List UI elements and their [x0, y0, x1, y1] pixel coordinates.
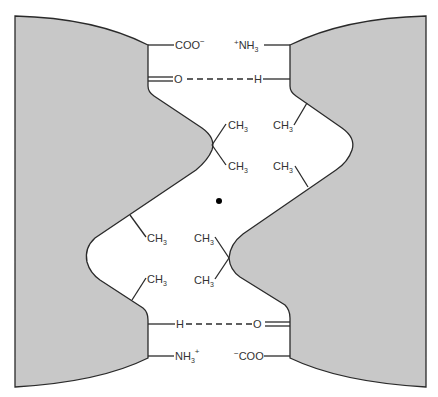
methyl-bond-right-lower-a — [215, 237, 229, 258]
label-h-bottom: H — [176, 318, 184, 330]
methyl-bond-right-lower-b — [215, 258, 229, 279]
methyl-label-left-lower-a: CH3 — [147, 232, 167, 246]
methyl-label-right-upper-b: CH3 — [273, 160, 293, 174]
methyl-label-left-lower-b: CH3 — [147, 273, 167, 287]
label-nh3-plus-bottom: NH3+ — [175, 347, 200, 364]
methyl-label-right-lower-b: CH3 — [194, 274, 214, 288]
label-h-top: H — [254, 73, 262, 85]
binding-diagram: COO− +NH3 O H CH3 CH3 CH3 CH3 CH3 CH3 CH… — [0, 0, 438, 397]
methyl-bond-right-upper-a — [294, 103, 307, 125]
methyl-bond-left-lower-b — [132, 278, 146, 300]
methyl-bond-left-lower-a — [130, 215, 146, 237]
label-coo-minus-top: COO− — [175, 37, 205, 51]
label-o-top: O — [174, 73, 183, 85]
methyl-label-left-upper-b: CH3 — [228, 160, 248, 174]
right-surface — [229, 16, 426, 387]
methyl-bond-left-upper-b — [212, 145, 226, 165]
methyl-bond-right-upper-b — [295, 166, 308, 187]
methyl-label-right-upper-a: CH3 — [273, 119, 293, 133]
methyl-label-left-upper-a: CH3 — [228, 119, 248, 133]
label-nh3-plus-top: +NH3 — [234, 38, 259, 53]
left-surface — [15, 16, 213, 387]
methyl-bond-left-upper-a — [212, 124, 226, 145]
label-coo-minus-bottom: −COO — [234, 349, 264, 362]
center-dot — [216, 198, 222, 204]
label-o-bottom: O — [253, 318, 262, 330]
methyl-label-right-lower-a: CH3 — [194, 232, 214, 246]
